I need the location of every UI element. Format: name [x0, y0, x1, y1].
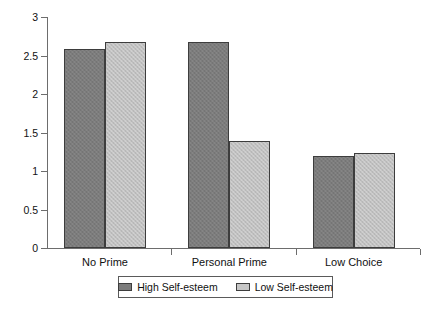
plot-area [47, 17, 420, 248]
bar [64, 49, 105, 248]
legend-swatch-icon-low [236, 283, 250, 291]
x-axis-category-label: No Prime [45, 256, 165, 268]
legend-label-high: High Self-esteem [137, 282, 218, 293]
y-axis-tick-label: 3 [2, 12, 38, 22]
legend-item-low-self-esteem: Low Self-esteem [236, 282, 333, 293]
y-axis-tick-label: 0.5 [2, 205, 38, 215]
x-axis-tick [420, 249, 421, 255]
legend-label-low: Low Self-esteem [255, 282, 333, 293]
y-axis-tick-label: 1.5 [2, 128, 38, 138]
bar [105, 42, 146, 248]
x-axis-category-label: Personal Prime [169, 256, 289, 268]
y-axis-tick-label: 1 [2, 166, 38, 176]
x-axis-tick [171, 249, 172, 255]
bar-chart: 32.521.510.50 No PrimePersonal PrimeLow … [0, 0, 438, 312]
y-axis-tick-label: 2.5 [2, 51, 38, 61]
x-axis-tick [296, 249, 297, 255]
bar [354, 153, 395, 248]
y-axis-tick-label: 0 [2, 243, 38, 253]
legend-swatch-icon-high [118, 283, 132, 291]
bar [188, 42, 229, 248]
y-axis-tick-label: 2 [2, 89, 38, 99]
x-axis-line [47, 248, 420, 249]
bar [313, 156, 354, 248]
bar [229, 141, 270, 248]
legend: High Self-esteem Low Self-esteem [118, 276, 333, 298]
legend-item-high-self-esteem: High Self-esteem [118, 282, 218, 293]
x-axis-category-label: Low Choice [294, 256, 414, 268]
